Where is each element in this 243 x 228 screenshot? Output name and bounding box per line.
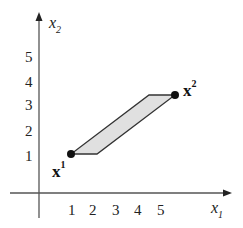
point-x2 — [171, 91, 179, 99]
y-axis-arrow-icon — [36, 12, 43, 21]
feasible-region — [71, 95, 175, 154]
y-tick-1: 1 — [25, 148, 33, 164]
point-x1 — [67, 150, 75, 158]
x-tick-2: 2 — [89, 202, 97, 218]
point-x2-label: x2 — [183, 78, 197, 100]
y-tick-2: 2 — [25, 123, 33, 139]
x-tick-1: 1 — [68, 202, 76, 218]
x-tick-5: 5 — [157, 202, 165, 218]
x-tick-3: 3 — [112, 202, 120, 218]
y-tick-5: 5 — [25, 49, 33, 65]
x-axis-arrow-icon — [223, 190, 232, 197]
y-axis-label: x2 — [48, 14, 61, 35]
x-tick-4: 4 — [134, 202, 142, 218]
diagram-canvas: x2 x1 5 4 3 2 1 1 2 3 4 5 x1 x2 — [0, 0, 243, 228]
y-tick-4: 4 — [25, 74, 33, 90]
x-axis-label: x1 — [210, 199, 223, 220]
point-x1-label: x1 — [52, 159, 66, 181]
y-tick-3: 3 — [25, 97, 33, 113]
